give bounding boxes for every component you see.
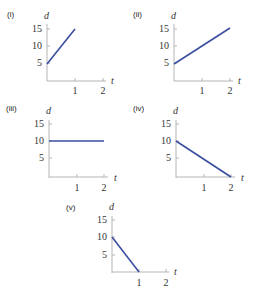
x-tick-1: 1 <box>73 85 78 96</box>
data-line <box>47 29 75 64</box>
x-axis-label: t <box>111 75 114 86</box>
y-axis <box>47 24 50 81</box>
chart-panel-ii: (ii) d t 15 10 5 1 2 <box>128 0 256 100</box>
y-tick-5: 5 <box>102 249 107 260</box>
data-line <box>176 141 231 177</box>
data-line <box>174 28 230 64</box>
x-axis <box>49 174 108 177</box>
x-axis-label: t <box>241 172 244 183</box>
y-axis <box>176 120 179 178</box>
y-tick-5: 5 <box>37 57 42 68</box>
y-tick-5: 5 <box>166 152 171 163</box>
y-tick-15: 15 <box>161 118 171 129</box>
x-tick-2: 2 <box>164 277 169 288</box>
line-chart: d t 15 10 5 1 2 <box>128 100 256 200</box>
y-axis-label: d <box>173 105 179 116</box>
x-tick-2: 2 <box>229 182 234 193</box>
x-tick-2: 2 <box>101 85 106 96</box>
x-axis <box>47 78 106 81</box>
y-axis <box>112 216 115 273</box>
chart-panel-i: (i) d t 15 10 5 1 2 <box>0 0 128 100</box>
x-axis-label: t <box>238 75 241 86</box>
y-tick-15: 15 <box>32 23 42 34</box>
y-tick-10: 10 <box>159 40 169 51</box>
y-tick-10: 10 <box>32 40 42 51</box>
y-tick-10: 10 <box>161 135 171 146</box>
line-chart: d t 15 10 5 1 2 <box>0 0 128 100</box>
y-tick-15: 15 <box>34 118 44 129</box>
y-tick-15: 15 <box>159 23 169 34</box>
line-chart: d t 15 10 5 1 2 <box>60 200 190 304</box>
y-axis-label: d <box>171 10 177 21</box>
x-tick-2: 2 <box>102 182 107 193</box>
y-tick-10: 10 <box>34 135 44 146</box>
y-axis <box>49 120 52 178</box>
data-line <box>112 237 139 272</box>
y-tick-10: 10 <box>97 231 107 242</box>
y-axis-label: d <box>109 201 115 212</box>
x-tick-1: 1 <box>75 182 80 193</box>
y-axis <box>174 24 177 81</box>
y-tick-5: 5 <box>39 152 44 163</box>
x-tick-2: 2 <box>228 85 233 96</box>
x-axis <box>112 269 169 272</box>
y-axis-label: d <box>44 10 50 21</box>
line-chart: d t 15 10 5 1 2 <box>128 0 256 100</box>
y-axis-label: d <box>46 105 52 116</box>
x-tick-1: 1 <box>202 182 207 193</box>
x-axis-label: t <box>174 266 177 277</box>
x-axis-label: t <box>114 172 117 183</box>
x-tick-1: 1 <box>137 277 142 288</box>
y-tick-5: 5 <box>164 57 169 68</box>
x-axis <box>174 78 233 81</box>
chart-panel-iv: (iv) d t 15 10 5 1 2 <box>128 100 256 200</box>
chart-panel-v: (v) d t 15 10 5 1 2 <box>60 200 190 304</box>
y-tick-15: 15 <box>97 214 107 225</box>
x-tick-1: 1 <box>200 85 205 96</box>
line-chart: d t 15 10 5 1 2 <box>0 100 128 200</box>
chart-panel-iii: (iii) d t 15 10 5 1 2 <box>0 100 128 200</box>
